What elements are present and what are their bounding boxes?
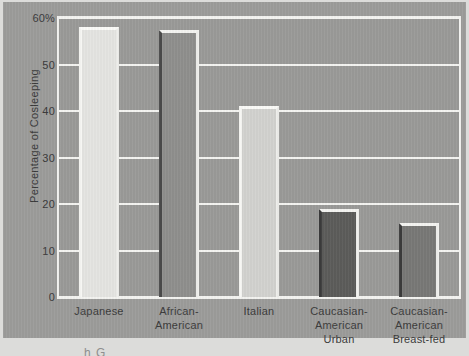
bar-african-american (159, 30, 199, 297)
caption-fragment: h G (84, 346, 106, 356)
y-tick-0: 0 (49, 291, 55, 303)
x-tick-line: Japanese (59, 304, 139, 318)
x-tick-line: Urban (299, 332, 379, 346)
x-tick-1: Japanese (59, 304, 139, 318)
bar-body (399, 223, 439, 297)
x-tick-line: Breast-fed (379, 332, 459, 346)
plot-inner (59, 18, 459, 297)
y-tick-20: 20 (42, 198, 55, 210)
bar-caucasian-american-urban (319, 209, 359, 297)
plot-area (57, 16, 461, 299)
y-tick-60: 60% (32, 12, 55, 24)
bar-japanese (79, 27, 119, 297)
bar-body (239, 106, 279, 297)
x-tick-3: Italian (219, 304, 299, 318)
bar-body (159, 30, 199, 297)
y-axis-label: Percentage of Cosleeping (28, 31, 40, 241)
x-tick-4: Caucasian-AmericanUrban (299, 304, 379, 346)
x-tick-line: Caucasian- (299, 304, 379, 318)
bar-body (79, 27, 119, 297)
x-tick-line: American (299, 318, 379, 332)
x-tick-line: African-American (139, 304, 219, 332)
bar-body (319, 209, 359, 297)
x-tick-5: Caucasian-AmericanBreast-fed (379, 304, 459, 346)
bar-caucasian-american-breast-fed (399, 223, 439, 297)
x-tick-line: American (379, 318, 459, 332)
bar-italian (239, 106, 279, 297)
x-tick-line: Caucasian- (379, 304, 459, 318)
scanned-page: 60%50403020100 Percentage of Cosleeping … (0, 0, 469, 356)
y-tick-40: 40 (42, 105, 55, 117)
gridline-60 (59, 17, 459, 19)
figure-panel: 60%50403020100 Percentage of Cosleeping … (3, 2, 466, 338)
y-tick-10: 10 (42, 245, 55, 257)
gridline-50 (59, 64, 459, 66)
x-tick-line: Italian (219, 304, 299, 318)
y-tick-50: 50 (42, 59, 55, 71)
x-tick-2: African-American (139, 304, 219, 332)
y-tick-30: 30 (42, 152, 55, 164)
